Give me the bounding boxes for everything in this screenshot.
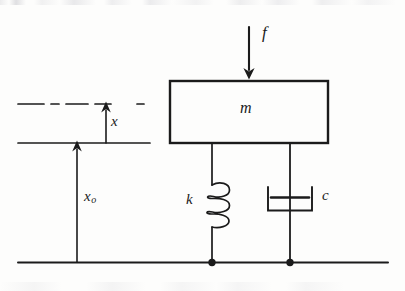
scan-artifact-bottom — [0, 282, 405, 291]
force-label: f — [262, 24, 267, 41]
joint-dot-spring — [208, 259, 215, 266]
displacement-label: x — [111, 114, 118, 129]
figure-canvas: f m k c x xo — [0, 0, 405, 291]
displacement-arrow-x0 — [72, 141, 82, 263]
mass-spring-damper-diagram — [0, 0, 405, 291]
displacement-arrow-x — [101, 102, 111, 144]
joint-dot-damper — [286, 259, 293, 266]
base-displacement-subscript: o — [91, 194, 96, 205]
force-arrow — [243, 27, 254, 80]
damping-coefficient-label: c — [322, 188, 329, 203]
mass-label: m — [240, 100, 252, 116]
damper — [268, 143, 312, 262]
base-displacement-label: xo — [84, 189, 96, 204]
spring-constant-label: k — [186, 192, 193, 207]
spring — [207, 143, 230, 262]
base-displacement-symbol: x — [84, 188, 91, 204]
